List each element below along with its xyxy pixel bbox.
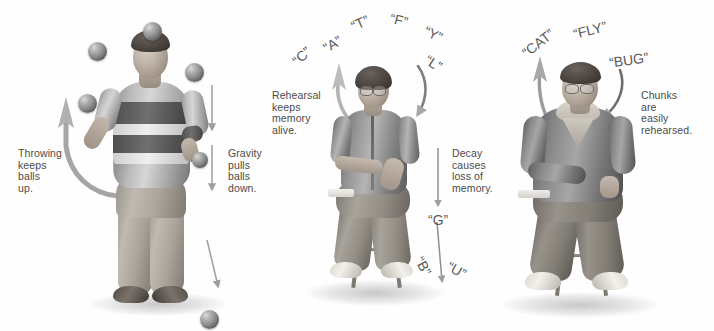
ball-top — [143, 22, 162, 41]
chunks-caption: Chunks are easily rehearsed. — [641, 90, 711, 136]
gravity-arrow-bottom — [207, 240, 218, 286]
ball-upper-right — [185, 63, 204, 82]
rehearsal-caption: Rehearsal keeps memory alive. — [272, 90, 344, 136]
gravity-caption: Gravity pulls balls down. — [228, 148, 290, 194]
chunk-arrow-up — [533, 56, 548, 120]
throwing-caption: Throwing keeps balls up. — [18, 148, 88, 194]
decay-caption: Decay causes loss of memory. — [452, 148, 518, 194]
ball-upper-left — [88, 42, 107, 61]
man-glasses-right — [580, 84, 594, 94]
ball-left-hand — [78, 94, 97, 113]
man-glasses-left — [565, 84, 579, 94]
woman-glasses — [360, 86, 373, 96]
illustration-canvas: Throwing keeps balls up. Gravity pulls b… — [0, 0, 714, 331]
letter-G: “G” — [428, 212, 448, 228]
woman-glasses-right — [373, 86, 386, 96]
chunk-arrow-down — [604, 70, 622, 117]
ball-right-hand — [192, 152, 208, 168]
ball-falling — [200, 310, 219, 329]
decay-arrow-lower — [437, 222, 442, 281]
rehearsal-arrow-down — [418, 66, 426, 114]
